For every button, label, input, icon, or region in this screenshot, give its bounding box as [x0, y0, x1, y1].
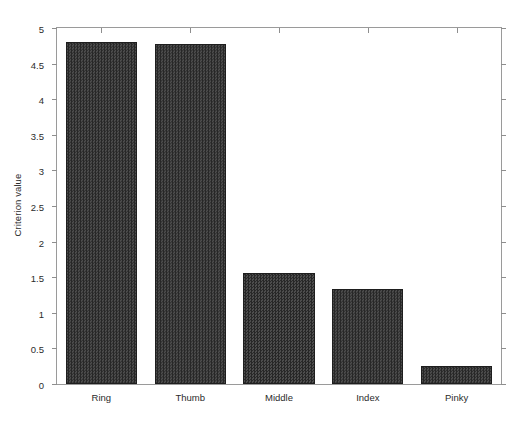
y-tick-right: [501, 277, 506, 278]
y-tick-label: 2.5: [31, 202, 44, 213]
y-tick-right: [501, 99, 506, 100]
y-tick-label: 2: [39, 237, 44, 248]
y-tick-label: 4: [39, 95, 44, 106]
x-tick: [101, 28, 102, 33]
y-tick: 4.5: [52, 64, 57, 65]
x-tick-label: Thumb: [175, 392, 205, 403]
y-tick-right: [501, 135, 506, 136]
bar: [66, 42, 137, 384]
bar-chart-figure: Criterion value 00.511.522.533.544.55 Ri…: [0, 0, 530, 422]
y-tick: 2: [52, 242, 57, 243]
bar: [332, 289, 403, 384]
y-tick-label: 5: [39, 24, 44, 35]
y-tick: 2.5: [52, 206, 57, 207]
y-tick-right: [501, 384, 506, 385]
x-tick: [190, 28, 191, 33]
y-tick: 0: [52, 384, 57, 385]
y-tick: 3.5: [52, 135, 57, 136]
y-tick: 4: [52, 99, 57, 100]
bar: [421, 366, 492, 384]
y-axis-title: Criterion value: [10, 27, 24, 383]
y-tick-label: 4.5: [31, 59, 44, 70]
y-tick: 0.5: [52, 348, 57, 349]
y-tick-label: 1: [39, 308, 44, 319]
y-tick-label: 0.5: [31, 344, 44, 355]
y-tick-right: [501, 170, 506, 171]
y-tick-right: [501, 206, 506, 207]
y-tick-right: [501, 348, 506, 349]
x-tick: [279, 28, 280, 33]
bar: [243, 273, 314, 384]
y-tick-right: [501, 313, 506, 314]
y-tick-label: 1.5: [31, 273, 44, 284]
y-tick-label: 0: [39, 380, 44, 391]
y-tick: 5: [52, 28, 57, 29]
y-tick-label: 3.5: [31, 130, 44, 141]
y-tick: 1: [52, 313, 57, 314]
y-tick: 1.5: [52, 277, 57, 278]
y-tick-label: 3: [39, 166, 44, 177]
y-tick: 3: [52, 170, 57, 171]
x-tick: [368, 28, 369, 33]
x-tick: [457, 28, 458, 33]
x-tick-label: Ring: [92, 392, 112, 403]
x-tick-label: Pinky: [445, 392, 468, 403]
x-tick-label: Index: [356, 392, 379, 403]
plot-area: 00.511.522.533.544.55 RingThumbMiddleInd…: [56, 27, 502, 385]
y-tick-right: [501, 28, 506, 29]
y-axis-title-text: Criterion value: [12, 174, 23, 237]
x-tick-label: Middle: [265, 392, 293, 403]
y-tick-right: [501, 242, 506, 243]
y-tick-right: [501, 64, 506, 65]
bar: [155, 44, 226, 384]
